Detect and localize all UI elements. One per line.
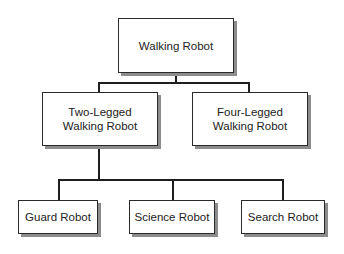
node-label: Four-Legged Walking Robot (213, 105, 287, 133)
connector-to-search (282, 179, 284, 200)
connector-to-two-legged (98, 82, 100, 92)
node-label: Search Robot (248, 210, 318, 224)
node-label: Guard Robot (25, 210, 91, 224)
node-label: Science Robot (135, 210, 210, 224)
connector-level3-horizontal (58, 179, 283, 181)
node-search-robot: Search Robot (241, 200, 325, 234)
connector-level2-horizontal (98, 82, 249, 84)
class-hierarchy-diagram: Walking Robot Two-Legged Walking Robot F… (0, 0, 344, 254)
connector-two-legged-vertical (98, 145, 100, 180)
node-two-legged-walking-robot: Two-Legged Walking Robot (42, 92, 158, 146)
connector-to-science (172, 179, 174, 200)
node-guard-robot: Guard Robot (18, 200, 98, 234)
node-label: Two-Legged Walking Robot (63, 105, 137, 133)
node-science-robot: Science Robot (129, 200, 215, 234)
connector-to-four-legged (248, 82, 250, 92)
connector-to-guard (58, 179, 60, 200)
node-walking-robot: Walking Robot (118, 18, 234, 73)
node-four-legged-walking-robot: Four-Legged Walking Robot (192, 92, 308, 146)
node-label: Walking Robot (139, 39, 213, 53)
